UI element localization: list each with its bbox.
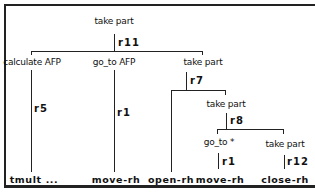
edge-open — [171, 90, 172, 172]
tick-take2 — [202, 51, 203, 55]
leaf-close-rh: close-rh — [261, 174, 309, 185]
rule-r5: r5 — [34, 103, 48, 114]
leaf-open-rh: open-rh — [148, 174, 194, 185]
branch-take2 — [171, 90, 226, 91]
node-root: take part — [95, 16, 134, 26]
tick-take4 — [283, 129, 284, 134]
tick-goto-star — [217, 129, 218, 134]
edge-root — [114, 34, 115, 52]
edge-take4 — [284, 155, 285, 169]
node-take-part-4: take part — [266, 139, 305, 149]
edge-goto-star — [218, 153, 219, 169]
edge-take2 — [186, 72, 187, 91]
leaf-tmult: tmult ... — [10, 174, 59, 185]
rule-r8: r8 — [230, 115, 244, 126]
tick-calc — [31, 51, 32, 55]
rule-r12: r12 — [287, 156, 309, 167]
branch-take3 — [217, 129, 284, 130]
edge-take3 — [226, 113, 227, 129]
leaf-move-rh-1: move-rh — [92, 174, 141, 185]
leaf-move-rh-2: move-rh — [196, 174, 245, 185]
branch-root — [31, 51, 203, 52]
edge-goto-afp — [114, 70, 115, 172]
node-take-part-2: take part — [184, 57, 223, 67]
edge-calc — [31, 70, 32, 172]
node-calculate-afp: calculate AFP — [3, 57, 61, 67]
rule-r11: r11 — [118, 37, 140, 48]
node-goto-afp: go_to AFP — [93, 57, 136, 67]
rule-r7: r7 — [190, 75, 204, 86]
node-goto-star: go_to * — [204, 137, 235, 147]
node-take-part-3: take part — [207, 99, 246, 109]
rule-r1-a: r1 — [117, 107, 131, 118]
tick-take3 — [225, 90, 226, 95]
diagram-frame — [4, 4, 315, 188]
rule-r1-b: r1 — [222, 156, 236, 167]
